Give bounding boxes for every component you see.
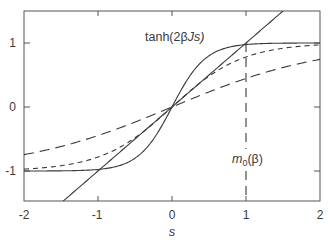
tanh-curve-intermediate <box>24 45 320 169</box>
chart: -2 -1 0 1 2 1 0 -1 s tanh(2βJs) m0(β) <box>0 0 330 242</box>
m0-label: m0(β) <box>232 152 263 168</box>
x-tick-label: 0 <box>169 208 176 222</box>
x-tick-label: 1 <box>243 208 250 222</box>
x-tick-label: -2 <box>19 208 30 222</box>
x-axis-label: s <box>169 224 176 239</box>
x-tick-label: -1 <box>92 208 103 222</box>
x-tick-label: 2 <box>317 208 324 222</box>
y-tick-label: 1 <box>9 36 16 50</box>
y-tick-label: 0 <box>9 100 16 114</box>
curve-label: tanh(2βJs) <box>145 30 204 44</box>
y-tick-label: -1 <box>5 164 16 178</box>
